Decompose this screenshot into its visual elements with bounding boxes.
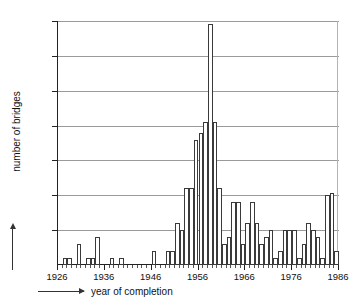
x-tick-mark-minor	[113, 265, 114, 268]
x-tick-mark-minor	[212, 265, 213, 268]
x-tick-mark-minor	[296, 265, 297, 268]
x-tick-mark-major	[338, 265, 339, 270]
x-tick-mark-major	[57, 265, 58, 270]
plot-area	[57, 21, 338, 265]
x-tick-mark-minor	[183, 265, 184, 268]
x-tick-mark-minor	[286, 265, 287, 268]
x-tick-mark-minor	[174, 265, 175, 268]
x-tick-mark-major	[291, 265, 292, 270]
gridline-35	[58, 21, 339, 22]
x-tick-label: 1926	[46, 272, 67, 282]
gridline-25	[58, 91, 339, 92]
x-tick-label: 1956	[187, 272, 208, 282]
x-tick-mark-major	[198, 265, 199, 270]
x-tick-mark-minor	[305, 265, 306, 268]
x-tick-mark-minor	[301, 265, 302, 268]
plot-right-border	[337, 21, 338, 265]
x-tick-mark-minor	[123, 265, 124, 268]
x-tick-label: 1976	[281, 272, 302, 282]
x-tick-label: 1986	[327, 272, 348, 282]
x-tick-mark-minor	[230, 265, 231, 268]
x-tick-mark-minor	[179, 265, 180, 268]
x-tick-mark-minor	[310, 265, 311, 268]
x-tick-mark-minor	[315, 265, 316, 268]
bar	[152, 251, 157, 265]
x-tick-mark-minor	[207, 265, 208, 268]
x-tick-mark-minor	[165, 265, 166, 268]
x-tick-label: 1966	[234, 272, 255, 282]
x-tick-mark-minor	[282, 265, 283, 268]
x-tick-mark-minor	[137, 265, 138, 268]
bar	[95, 237, 100, 265]
x-tick-mark-minor	[169, 265, 170, 268]
x-tick-mark-minor	[71, 265, 72, 268]
x-tick-mark-minor	[263, 265, 264, 268]
x-tick-mark-minor	[272, 265, 273, 268]
x-tick-mark-major	[244, 265, 245, 270]
x-tick-mark-minor	[324, 265, 325, 268]
x-tick-mark-minor	[160, 265, 161, 268]
x-tick-mark-minor	[221, 265, 222, 268]
y-axis-arrow-icon	[12, 228, 13, 270]
x-tick-mark-minor	[99, 265, 100, 268]
bar	[334, 251, 339, 265]
x-tick-mark-minor	[240, 265, 241, 268]
x-tick-mark-minor	[127, 265, 128, 268]
x-tick-mark-minor	[202, 265, 203, 268]
x-tick-mark-minor	[329, 265, 330, 268]
x-axis-title-row: year of completion	[38, 286, 173, 297]
x-tick-label: 1946	[140, 272, 161, 282]
x-tick-mark-minor	[80, 265, 81, 268]
x-tick-mark-minor	[188, 265, 189, 268]
x-axis-arrow-icon	[38, 291, 84, 292]
y-axis-title: number of bridges	[11, 72, 22, 192]
gridline-30	[58, 56, 339, 57]
x-tick-mark-minor	[249, 265, 250, 268]
x-tick-mark-minor	[132, 265, 133, 268]
x-tick-mark-minor	[109, 265, 110, 268]
x-tick-mark-minor	[90, 265, 91, 268]
x-tick-mark-minor	[226, 265, 227, 268]
x-tick-label: 1936	[93, 272, 114, 282]
x-tick-mark-minor	[258, 265, 259, 268]
bar	[77, 244, 82, 265]
x-tick-mark-minor	[277, 265, 278, 268]
x-tick-mark-major	[151, 265, 152, 270]
bar	[119, 258, 124, 265]
x-tick-mark-minor	[141, 265, 142, 268]
bar	[110, 258, 115, 265]
x-tick-mark-minor	[268, 265, 269, 268]
x-tick-mark-minor	[333, 265, 334, 268]
x-tick-mark-major	[104, 265, 105, 270]
x-tick-mark-minor	[85, 265, 86, 268]
x-tick-mark-minor	[235, 265, 236, 268]
x-tick-mark-minor	[66, 265, 67, 268]
x-tick-mark-minor	[62, 265, 63, 268]
x-tick-mark-minor	[155, 265, 156, 268]
x-tick-mark-minor	[193, 265, 194, 268]
gridline-20	[58, 126, 339, 127]
x-axis-title: year of completion	[91, 286, 173, 297]
x-tick-mark-minor	[118, 265, 119, 268]
x-tick-mark-minor	[216, 265, 217, 268]
bridges-histogram: 5101520253035 19261936194619561966197619…	[0, 0, 356, 306]
x-tick-mark-minor	[76, 265, 77, 268]
x-tick-mark-minor	[146, 265, 147, 268]
x-tick-mark-minor	[254, 265, 255, 268]
x-tick-mark-minor	[94, 265, 95, 268]
y-axis: 5101520253035	[0, 0, 57, 306]
bar	[67, 258, 72, 265]
x-tick-mark-minor	[319, 265, 320, 268]
